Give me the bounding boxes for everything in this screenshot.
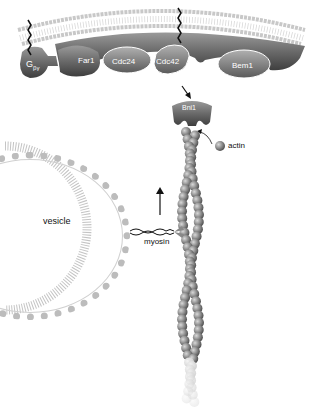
cdc24-label: Cdc24 <box>112 57 135 66</box>
gbg-label: Gβγ <box>26 59 39 69</box>
actin-filament <box>177 127 204 407</box>
transport-arrow <box>156 187 164 215</box>
actin-monomer <box>215 141 225 151</box>
bem1-label: Bem1 <box>232 61 253 70</box>
bni1-label: Bni1 <box>182 104 196 111</box>
far1-label: Far1 <box>78 56 94 65</box>
myosin-label: myosin <box>144 237 169 246</box>
cdc42-label: Cdc42 <box>156 57 179 66</box>
polarisome-complex <box>20 32 305 78</box>
gbg-label-main: G <box>26 59 33 69</box>
gbg-label-sub: βγ <box>33 65 39 71</box>
activation-arrow <box>182 86 191 99</box>
actin-arrow <box>200 132 212 144</box>
actin-label: actin <box>228 141 245 150</box>
vesicle-label: vesicle <box>43 216 71 226</box>
